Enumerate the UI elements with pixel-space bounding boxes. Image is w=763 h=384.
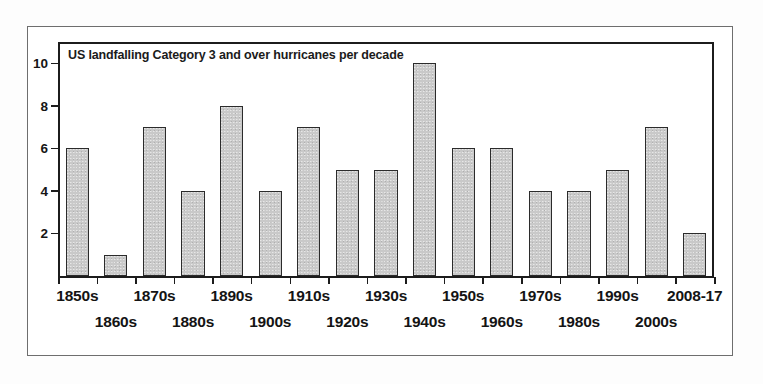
x-label-1850s: 1850s: [56, 287, 98, 305]
x-label-1910s: 1910s: [288, 287, 330, 305]
x-label-1860s: 1860s: [95, 313, 137, 331]
x-label-1920s: 1920s: [326, 313, 368, 331]
x-label-1870s: 1870s: [133, 287, 175, 305]
x-label-2008-17: 2008-17: [667, 287, 722, 305]
x-label-1950s: 1950s: [442, 287, 484, 305]
x-label-1900s: 1900s: [249, 313, 291, 331]
x-label-2000s: 2000s: [635, 313, 677, 331]
x-label-1960s: 1960s: [481, 313, 523, 331]
x-label-1940s: 1940s: [404, 313, 446, 331]
x-axis-category-labels: 1850s1860s1870s1880s1890s1900s1910s1920s…: [0, 0, 763, 384]
chart-figure: US landfalling Category 3 and over hurri…: [0, 0, 763, 384]
x-label-1980s: 1980s: [558, 313, 600, 331]
x-label-1970s: 1970s: [519, 287, 561, 305]
x-label-1890s: 1890s: [211, 287, 253, 305]
x-label-1880s: 1880s: [172, 313, 214, 331]
x-label-1930s: 1930s: [365, 287, 407, 305]
x-label-1990s: 1990s: [596, 287, 638, 305]
